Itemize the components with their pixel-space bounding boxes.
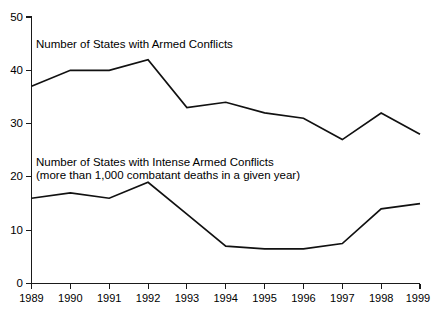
x-tick-label-1996: 1996 bbox=[291, 292, 315, 304]
lower-series-label-line1: Number of States with Intense Armed Conf… bbox=[36, 156, 274, 168]
x-tick-label-1990: 1990 bbox=[58, 292, 82, 304]
y-tick-label-0: 0 bbox=[17, 277, 23, 289]
upper-series-label: Number of States with Armed Conflicts bbox=[36, 38, 233, 50]
x-tick-label-1991: 1991 bbox=[97, 292, 121, 304]
y-tick-label-10: 10 bbox=[10, 224, 23, 236]
x-tick-label-1998: 1998 bbox=[369, 292, 393, 304]
x-tick-label-1994: 1994 bbox=[214, 292, 238, 304]
x-tick-labels: 1989 1990 1991 1992 1993 1994 1995 1996 … bbox=[19, 292, 430, 304]
lower-series-label-line2: (more than 1,000 combatant deaths in a g… bbox=[36, 169, 300, 181]
y-tick-labels: 50 40 30 20 10 0 bbox=[10, 11, 23, 290]
x-tick-label-1999: 1999 bbox=[406, 292, 430, 304]
y-tick-label-40: 40 bbox=[10, 64, 23, 76]
line-chart: 50 40 30 20 10 0 1989 1990 1991 1992 bbox=[0, 0, 437, 311]
annotation-group: Number of States with Armed Conflicts Nu… bbox=[36, 38, 300, 181]
series-line-intense-armed-conflicts bbox=[32, 182, 421, 249]
x-tick-label-1989: 1989 bbox=[19, 292, 43, 304]
x-tick-label-1993: 1993 bbox=[175, 292, 199, 304]
x-tick-label-1992: 1992 bbox=[136, 292, 160, 304]
x-tick-label-1995: 1995 bbox=[252, 292, 276, 304]
x-tick-label-1997: 1997 bbox=[330, 292, 354, 304]
x-tick-marks bbox=[32, 284, 421, 290]
series-line-armed-conflicts bbox=[32, 60, 421, 140]
y-tick-marks bbox=[26, 17, 32, 284]
axis-group bbox=[32, 17, 421, 284]
y-tick-label-50: 50 bbox=[10, 11, 23, 23]
series-group bbox=[32, 60, 421, 249]
chart-container: 50 40 30 20 10 0 1989 1990 1991 1992 bbox=[0, 0, 437, 311]
y-tick-label-30: 30 bbox=[10, 117, 23, 129]
y-tick-label-20: 20 bbox=[10, 170, 23, 182]
